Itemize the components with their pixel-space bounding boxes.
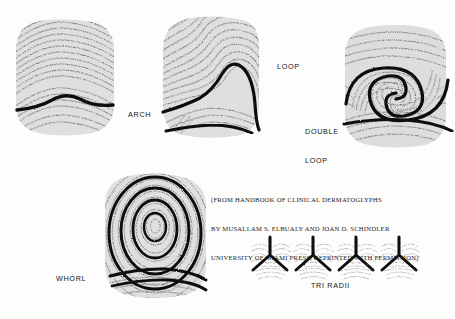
- label-whorl: WHORL: [56, 274, 86, 284]
- credit-line-2: BY MUSALLAM S. ELBUALY AND JOAN D. SCHIN…: [211, 224, 419, 234]
- credit-block: (FROM HANDBOOK OF CLINICAL DERMATOGLYPHS…: [211, 176, 419, 272]
- label-double-loop: DOUBLE LOOP: [305, 108, 339, 175]
- label-double-loop-line2: LOOP: [305, 156, 339, 166]
- fingerprint-whorl: [98, 167, 215, 309]
- fingerprint-arch: [10, 12, 125, 144]
- label-arch: ARCH: [128, 110, 151, 120]
- credit-line-1: (FROM HANDBOOK OF CLINICAL DERMATOGLYPHS: [211, 195, 419, 205]
- label-double-loop-line1: DOUBLE: [305, 127, 339, 137]
- label-tri-radii: TRI RADII: [311, 281, 350, 291]
- label-loop: LOOP: [277, 62, 300, 72]
- fingerprint-double-loop: [338, 20, 453, 152]
- credit-line-3: UNIVERSITY OF MIAMI PRESS, REPRINTED WIT…: [211, 253, 419, 263]
